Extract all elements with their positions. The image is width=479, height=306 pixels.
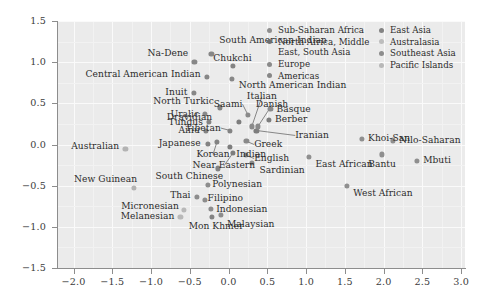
x-axis-tick-label: 2.5 bbox=[402, 276, 442, 287]
data-point-label: Malaysian bbox=[227, 219, 275, 229]
legend-marker-dot bbox=[379, 51, 384, 56]
x-axis-tick-label: 1.5 bbox=[325, 276, 365, 287]
y-axis-line bbox=[57, 21, 58, 269]
data-point-label: Sardinian bbox=[260, 165, 305, 175]
legend-item: Sub-Saharan Africa bbox=[267, 25, 375, 36]
data-point-label: Basque bbox=[277, 104, 311, 114]
x-axis-tick-label: −1.5 bbox=[92, 276, 132, 287]
legend-item: Europe bbox=[267, 59, 375, 70]
scatter-plot-figure: 1.51.00.50.0−0.5−1.0−1.5 −2.0−1.5−1.0−0.… bbox=[0, 0, 479, 306]
legend-marker-dot bbox=[379, 28, 384, 33]
x-axis-tick-label: 0.5 bbox=[247, 276, 287, 287]
x-axis-tick bbox=[229, 269, 230, 274]
legend-label: Sub-Saharan Africa bbox=[278, 25, 375, 36]
legend-marker-dot bbox=[267, 28, 272, 33]
legend-marker-dot bbox=[379, 39, 384, 44]
x-axis-tick bbox=[112, 269, 113, 274]
data-point-label: Tibetan bbox=[185, 123, 220, 133]
x-axis-tick bbox=[151, 269, 152, 274]
data-point-label: Central American Indian bbox=[86, 69, 201, 79]
y-axis-tick bbox=[52, 62, 57, 63]
legend-label: North Africa, Middle East, South Asia bbox=[278, 37, 375, 58]
data-point-label: North Turkic bbox=[153, 96, 214, 106]
legend-item: East Asia bbox=[379, 25, 467, 36]
gridline-horizontal-minor bbox=[58, 124, 465, 125]
data-point-label: Micronesian bbox=[121, 201, 179, 211]
x-axis-tick-label: 2.0 bbox=[364, 276, 404, 287]
y-axis-tick bbox=[52, 268, 57, 269]
legend-label: Australasia bbox=[390, 37, 467, 48]
data-point-label: Thai bbox=[170, 190, 190, 200]
y-axis-tick-label: −1.0 bbox=[0, 221, 46, 232]
legend-marker-dot bbox=[267, 62, 272, 67]
y-axis-tick bbox=[52, 145, 57, 146]
data-point-label: East African bbox=[315, 159, 372, 169]
data-point-label: Polynesian bbox=[212, 179, 262, 189]
y-axis-tick bbox=[52, 21, 57, 22]
legend-item: Australasia bbox=[379, 37, 467, 48]
data-point-label: West African bbox=[353, 188, 412, 198]
y-axis-tick-label: −1.5 bbox=[0, 262, 46, 273]
x-axis-tick-label: 1.0 bbox=[286, 276, 326, 287]
data-point-label: Nilo-Saharan bbox=[399, 135, 460, 145]
legend-label: Southeast Asia bbox=[390, 48, 467, 59]
x-axis-tick bbox=[190, 269, 191, 274]
y-axis-tick bbox=[52, 186, 57, 187]
y-axis-tick bbox=[52, 227, 57, 228]
x-axis-tick-label: −2.0 bbox=[54, 276, 94, 287]
data-point-label: New Guinean bbox=[74, 174, 137, 184]
legend-column-2: East AsiaAustralasiaSoutheast AsiaPacifi… bbox=[379, 25, 467, 72]
y-axis-tick-label: −0.5 bbox=[0, 180, 46, 191]
data-point-label: Australian bbox=[71, 141, 119, 151]
legend-item: Southeast Asia bbox=[379, 48, 467, 59]
y-axis-tick bbox=[52, 103, 57, 104]
legend-label: Pacific Islands bbox=[390, 60, 467, 71]
y-axis-tick-label: 1.5 bbox=[0, 15, 46, 26]
x-axis-tick bbox=[267, 269, 268, 274]
x-axis-tick-label: 3.0 bbox=[441, 276, 479, 287]
data-point-label: Greek bbox=[254, 139, 282, 149]
x-axis-tick-label: 0.0 bbox=[209, 276, 249, 287]
y-axis-tick-label: 0.0 bbox=[0, 139, 46, 150]
legend-item: North Africa, Middle East, South Asia bbox=[267, 37, 375, 58]
data-point-label: Melanesian bbox=[121, 211, 175, 221]
legend-label: East Asia bbox=[390, 25, 467, 36]
x-axis-tick bbox=[345, 269, 346, 274]
x-axis-tick bbox=[74, 269, 75, 274]
gridline-horizontal-minor bbox=[58, 247, 465, 248]
x-axis-tick bbox=[422, 269, 423, 274]
x-axis-line bbox=[57, 268, 466, 269]
data-point-label: Filipino bbox=[208, 193, 244, 203]
x-axis-tick bbox=[461, 269, 462, 274]
legend-label: Europe bbox=[278, 59, 375, 70]
x-axis-tick bbox=[384, 269, 385, 274]
legend-label: Americas bbox=[278, 71, 375, 82]
legend-marker-dot bbox=[267, 39, 272, 44]
data-point-label: Japanese bbox=[159, 138, 201, 148]
legend-marker-dot bbox=[267, 73, 272, 78]
legend-item: Americas bbox=[267, 71, 375, 82]
data-point-label: Mbuti bbox=[423, 155, 451, 165]
x-axis-tick-label: −1.0 bbox=[131, 276, 171, 287]
data-point-label: Danish bbox=[212, 99, 332, 109]
y-axis-tick-label: 1.0 bbox=[0, 56, 46, 67]
x-axis-tick-label: −0.5 bbox=[170, 276, 210, 287]
data-point-label: Indonesian bbox=[216, 204, 267, 214]
legend-marker-dot bbox=[379, 63, 384, 68]
data-point-label: Korean bbox=[153, 149, 273, 159]
data-point-label: Berber bbox=[275, 114, 307, 124]
gridline-horizontal bbox=[58, 21, 465, 22]
legend-column-1: Sub-Saharan AfricaNorth Africa, Middle E… bbox=[267, 25, 375, 82]
legend-item: Pacific Islands bbox=[379, 60, 467, 71]
y-axis-tick-label: 0.5 bbox=[0, 97, 46, 108]
x-axis-tick bbox=[306, 269, 307, 274]
data-point-label: Iranian bbox=[295, 130, 329, 140]
